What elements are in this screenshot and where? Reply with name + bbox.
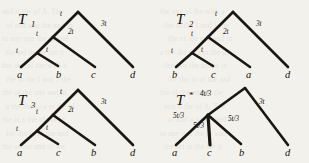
Tstar-length-label-a: 5t/3 bbox=[173, 112, 185, 120]
tree-title-T3-subscript: 3 bbox=[30, 100, 35, 110]
T3-length-label-b: 2t bbox=[68, 106, 75, 114]
T2-leaf-3: a bbox=[246, 69, 251, 80]
T3-branch-root-left bbox=[53, 90, 78, 115]
Tstar-branch-to-d bbox=[245, 88, 288, 145]
T2-length-label-internal: t bbox=[191, 30, 194, 38]
T2-branch-to-a bbox=[208, 37, 250, 67]
tree-title-Tstar-base: T bbox=[176, 92, 186, 108]
tree-Tstar: T * 4t/3 5t/3 5t/3 5t/3 3t a c b d bbox=[172, 88, 291, 158]
Tstar-length-label-d: 3t bbox=[258, 98, 266, 106]
T2-branch-to-b bbox=[176, 53, 192, 67]
T2-length-label-b: t bbox=[171, 47, 174, 55]
T3-length-label-internal: t bbox=[36, 108, 39, 116]
Tstar-leaf-4: d bbox=[285, 147, 291, 158]
Tstar-leaf-1: a bbox=[172, 147, 177, 158]
tree-title-T1-subscript: 1 bbox=[31, 19, 35, 29]
T3-branch-to-b bbox=[53, 115, 95, 145]
T1-branch-to-a bbox=[21, 53, 37, 67]
T1-length-label-b: t bbox=[46, 46, 49, 54]
T2-length-label-a: 2t bbox=[223, 28, 230, 36]
T3-length-label-c: t bbox=[46, 124, 49, 132]
T3-branch-to-c bbox=[37, 131, 58, 144]
T3-length-label-root-left: t bbox=[60, 88, 63, 96]
trees-figure: T 1 t t t t 2t 3t a b c d T 2 t t t t bbox=[0, 0, 309, 163]
Tstar-branch-to-c bbox=[208, 115, 210, 145]
T2-leaf-1: b bbox=[172, 69, 177, 80]
tree-T3: T 3 t t t t 2t 3t a c b d bbox=[16, 88, 136, 158]
Tstar-leaf-3: b bbox=[239, 147, 244, 158]
T1-leaf-1: a bbox=[17, 69, 22, 80]
T1-leaf-2: b bbox=[56, 69, 61, 80]
T3-length-label-a: t bbox=[16, 125, 19, 133]
Tstar-length-label-b: 5t/3 bbox=[228, 115, 240, 123]
Tstar-branch-root-left bbox=[208, 88, 245, 115]
T1-length-label-a: t bbox=[16, 47, 19, 55]
T1-branch-internal bbox=[37, 37, 53, 53]
T3-branch-internal bbox=[37, 115, 53, 131]
tree-title-T1-base: T bbox=[18, 11, 28, 27]
T2-length-label-root-left: t bbox=[215, 10, 218, 18]
tree-title-T3-base: T bbox=[18, 92, 28, 108]
T1-branch-to-b bbox=[37, 53, 58, 66]
T2-leaf-4: d bbox=[285, 69, 291, 80]
tree-title-Tstar-asterisk: * bbox=[189, 90, 194, 100]
Tstar-length-label-c: 5t/3 bbox=[193, 122, 205, 130]
Tstar-length-label-root-left: 4t/3 bbox=[200, 90, 212, 98]
T1-length-label-root-left: t bbox=[60, 10, 63, 18]
T2-leaf-2: c bbox=[211, 69, 216, 80]
tree-T2: T 2 t t t t 2t 3t b c a d bbox=[171, 10, 291, 80]
T3-leaf-1: a bbox=[17, 147, 22, 158]
T2-branch-internal bbox=[192, 37, 208, 53]
T3-leaf-4: d bbox=[130, 147, 136, 158]
T1-leaf-4: d bbox=[130, 69, 136, 80]
T2-branch-to-c bbox=[192, 53, 213, 66]
T1-length-label-c: 2t bbox=[68, 28, 75, 36]
T3-branch-to-a bbox=[21, 131, 37, 145]
tree-T1: T 1 t t t t 2t 3t a b c d bbox=[16, 10, 136, 80]
T1-length-label-d: 3t bbox=[100, 20, 108, 28]
T1-branch-root-left bbox=[53, 12, 78, 37]
T2-branch-root-left bbox=[208, 12, 233, 37]
T3-length-label-d: 3t bbox=[100, 98, 108, 106]
T2-length-label-d: 3t bbox=[255, 20, 263, 28]
tree-title-T2-subscript: 2 bbox=[189, 19, 194, 29]
Tstar-leaf-2: c bbox=[207, 147, 212, 158]
T1-leaf-3: c bbox=[91, 69, 96, 80]
T1-length-label-internal: t bbox=[36, 30, 39, 38]
T2-length-label-c: t bbox=[201, 46, 204, 54]
T1-branch-to-c bbox=[53, 37, 95, 67]
tree-title-T2-base: T bbox=[176, 11, 186, 27]
T3-leaf-2: c bbox=[56, 147, 61, 158]
T3-leaf-3: b bbox=[91, 147, 96, 158]
